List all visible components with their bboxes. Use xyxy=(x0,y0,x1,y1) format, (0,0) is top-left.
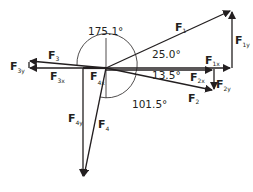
label-F4: F4 xyxy=(98,118,110,132)
label-F4x: F4x xyxy=(90,70,105,86)
label-F3y: F3y xyxy=(10,60,25,75)
angle-label-25: 25.0° xyxy=(152,48,181,60)
label-F3: F3 xyxy=(48,49,60,62)
label-F2y: F2y xyxy=(216,78,231,93)
vector-F3 xyxy=(30,61,106,68)
label-F3x: F3x xyxy=(50,70,65,84)
angle-label-13: 13.5° xyxy=(152,69,181,81)
arc-25-icon xyxy=(136,56,137,68)
force-vector-diagram: F1 F1y F1x F2x F2y F2 F3 F3y F3x F4x F4y… xyxy=(0,0,253,192)
label-F2x: F2x xyxy=(190,71,205,84)
label-F1: F1 xyxy=(175,21,187,34)
arc-175-icon xyxy=(77,34,136,65)
label-F1y: F1y xyxy=(235,34,250,49)
arc-101-icon xyxy=(100,75,136,98)
label-F2: F2 xyxy=(188,92,200,105)
component-vectors xyxy=(29,12,232,176)
force-vectors xyxy=(30,11,230,176)
angle-label-175: 175.1° xyxy=(88,25,123,37)
label-F4y: F4y xyxy=(68,112,83,127)
label-F1x: F1x xyxy=(205,54,220,67)
angle-label-101: 101.5° xyxy=(132,98,167,110)
